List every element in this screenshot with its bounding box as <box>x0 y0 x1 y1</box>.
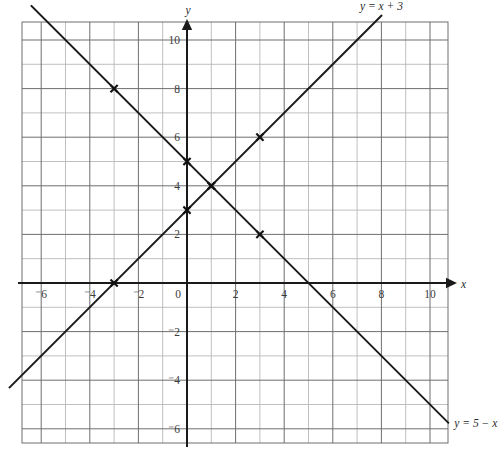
x-axis-tick-label: ⁻6 <box>35 288 47 300</box>
x-axis-name-label: x <box>460 278 467 290</box>
y-axis-tick-label: 10 <box>169 34 181 46</box>
y-axis-tick-label: 6 <box>174 131 180 143</box>
x-axis-tick-label: ⁻2 <box>133 288 145 300</box>
y-axis-tick-label: ⁻4 <box>168 374 180 386</box>
y-axis-tick-label: 8 <box>174 83 180 95</box>
function-line <box>31 6 448 423</box>
coordinate-graph-figure: ⁻6⁻4⁻20246810108642⁻2⁻4⁻6 y = x + 3y = 5… <box>0 0 502 453</box>
grid-major-lines <box>22 22 448 443</box>
x-axis-tick-label: 8 <box>379 288 385 300</box>
y-axis-tick-label: ⁻6 <box>168 423 180 435</box>
y-axis-tick-label: 4 <box>174 180 180 192</box>
axis-name-labels: xy <box>184 4 467 290</box>
x-axis-arrowhead <box>446 278 457 288</box>
x-axis-tick-label: 6 <box>330 288 336 300</box>
y-axis-tick-label: ⁻2 <box>168 326 180 338</box>
x-axis-tick-label: 4 <box>281 288 287 300</box>
line-equation-label: y = 5 − x <box>453 417 498 430</box>
graph-canvas: ⁻6⁻4⁻20246810108642⁻2⁻4⁻6 y = x + 3y = 5… <box>0 0 502 453</box>
y-axis-arrowhead <box>182 19 192 30</box>
line-equation-label: y = x + 3 <box>359 0 403 13</box>
function-lines <box>10 6 449 423</box>
y-axis-tick-label: 2 <box>174 228 180 240</box>
y-axis-name-label: y <box>184 4 191 17</box>
x-axis-tick-label: 0 <box>175 288 181 300</box>
axes <box>18 19 457 447</box>
x-axis-tick-label: ⁻4 <box>84 288 96 300</box>
x-axis-tick-label: 10 <box>424 288 436 300</box>
x-axis-tick-label: 2 <box>233 288 239 300</box>
